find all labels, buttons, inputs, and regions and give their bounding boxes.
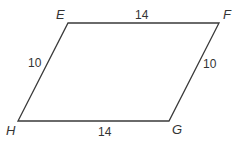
vertex-label-e: E — [56, 7, 65, 22]
vertex-label-h: H — [6, 123, 16, 138]
vertex-label-f: F — [223, 7, 232, 22]
parallelogram-efgh — [18, 23, 219, 121]
vertex-label-g: G — [172, 122, 182, 137]
side-label-gh: 14 — [98, 125, 112, 139]
side-label-fg: 10 — [203, 57, 217, 71]
side-label-ef: 14 — [135, 8, 149, 22]
side-label-he: 10 — [28, 56, 42, 70]
parallelogram-diagram: E F G H 14 10 14 10 — [0, 0, 238, 143]
